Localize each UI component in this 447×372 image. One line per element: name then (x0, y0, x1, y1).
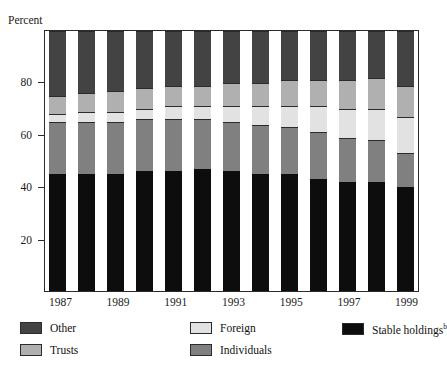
bar-segment (49, 122, 66, 174)
bar-group (45, 31, 418, 291)
bar-segment (165, 31, 182, 86)
bar-segment (49, 174, 66, 291)
bar-segment (368, 140, 385, 182)
legend-label: Foreign (220, 322, 256, 334)
stacked-bar (310, 31, 327, 291)
bar-segment (397, 86, 414, 117)
bar-segment (397, 31, 414, 86)
bar-segment (107, 174, 124, 291)
bar-segment (136, 119, 153, 171)
bar-segment (223, 171, 240, 291)
bar-segment (78, 31, 95, 93)
legend-item: Individuals (190, 344, 272, 356)
stacked-bar (165, 31, 182, 291)
legend-swatch (190, 322, 212, 334)
bar-segment (368, 182, 385, 291)
bar-segment (165, 171, 182, 291)
bar-segment (49, 96, 66, 114)
bar-segment (107, 91, 124, 112)
bar-segment (339, 80, 356, 109)
bar-segment (78, 174, 95, 291)
bar-segment (397, 153, 414, 187)
bar-segment (136, 171, 153, 291)
x-tick-label: 1987 (49, 296, 72, 308)
bar-segment (252, 125, 269, 174)
bar-segment (397, 187, 414, 291)
bar-segment (194, 31, 211, 86)
y-tick-label: 60 (6, 129, 32, 141)
bar-segment (136, 109, 153, 119)
bar-segment (223, 83, 240, 106)
legend-swatch (342, 323, 364, 335)
legend-swatch (20, 344, 42, 356)
bar-segment (310, 132, 327, 179)
bar-segment (339, 138, 356, 182)
legend-item: Stable holdingsb (342, 322, 447, 336)
bar-segment (339, 109, 356, 138)
bar-segment (281, 106, 298, 127)
legend-label: Trusts (50, 344, 78, 356)
bar-segment (368, 31, 385, 78)
stacked-bar (78, 31, 95, 291)
x-tick-label: 1991 (164, 296, 187, 308)
bar-segment (252, 174, 269, 291)
bar-segment (339, 182, 356, 291)
legend-label: Stable holdingsb (372, 322, 447, 336)
bar-segment (165, 86, 182, 107)
x-tick-label: 1999 (395, 296, 418, 308)
bar-segment (107, 122, 124, 174)
bar-segment (107, 112, 124, 122)
stacked-bar (223, 31, 240, 291)
bar-segment (310, 31, 327, 80)
plot-area (44, 30, 419, 292)
bar-segment (281, 174, 298, 291)
stacked-bar (281, 31, 298, 291)
stacked-bar (194, 31, 211, 291)
legend-label: Individuals (220, 344, 272, 356)
bar-segment (49, 31, 66, 96)
bar-segment (223, 31, 240, 83)
x-tick-label: 1997 (337, 296, 360, 308)
y-tick-mark (38, 240, 45, 241)
bar-segment (223, 106, 240, 122)
legend-swatch (20, 322, 42, 334)
bar-segment (310, 106, 327, 132)
bar-segment (339, 31, 356, 80)
bar-segment (281, 127, 298, 174)
bar-segment (397, 117, 414, 153)
bar-segment (252, 31, 269, 83)
y-axis-title: Percent (8, 14, 42, 26)
y-tick-mark (38, 187, 45, 188)
bar-segment (78, 122, 95, 174)
legend-swatch (190, 344, 212, 356)
legend-label: Other (50, 322, 76, 334)
y-tick-mark (38, 135, 45, 136)
stacked-bar (136, 31, 153, 291)
bar-segment (252, 106, 269, 124)
legend-item: Other (20, 322, 76, 334)
stacked-bar (368, 31, 385, 291)
y-tick-label: 20 (6, 234, 32, 246)
stacked-bar (252, 31, 269, 291)
legend: OtherTrustsForeignIndividualsStable hold… (20, 322, 425, 366)
legend-item: Trusts (20, 344, 78, 356)
bar-segment (136, 88, 153, 109)
stacked-bar (49, 31, 66, 291)
bar-segment (281, 80, 298, 106)
bar-segment (49, 114, 66, 122)
bar-segment (194, 86, 211, 107)
stacked-bar (397, 31, 414, 291)
stacked-bar (339, 31, 356, 291)
bar-segment (107, 31, 124, 91)
bar-segment (78, 112, 95, 122)
x-tick-label: 1995 (280, 296, 303, 308)
bar-segment (310, 80, 327, 106)
bar-segment (165, 106, 182, 119)
bar-segment (310, 179, 327, 291)
stacked-bar (107, 31, 124, 291)
bar-segment (223, 122, 240, 171)
bar-segment (368, 78, 385, 109)
bar-segment (252, 83, 269, 106)
bar-segment (165, 119, 182, 171)
y-tick-label: 40 (6, 181, 32, 193)
